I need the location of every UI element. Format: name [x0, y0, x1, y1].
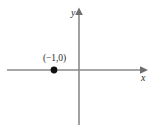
plotted-point-minus-one-zero [51, 67, 58, 74]
coordinate-plane-figure: y x (−1,0) [0, 0, 158, 135]
axes-and-point-graphic [0, 0, 158, 135]
y-axis-arrow-icon [75, 8, 83, 16]
y-axis-label: y [71, 8, 75, 18]
point-coordinate-label: (−1,0) [43, 54, 66, 64]
x-axis-label: x [141, 73, 145, 83]
